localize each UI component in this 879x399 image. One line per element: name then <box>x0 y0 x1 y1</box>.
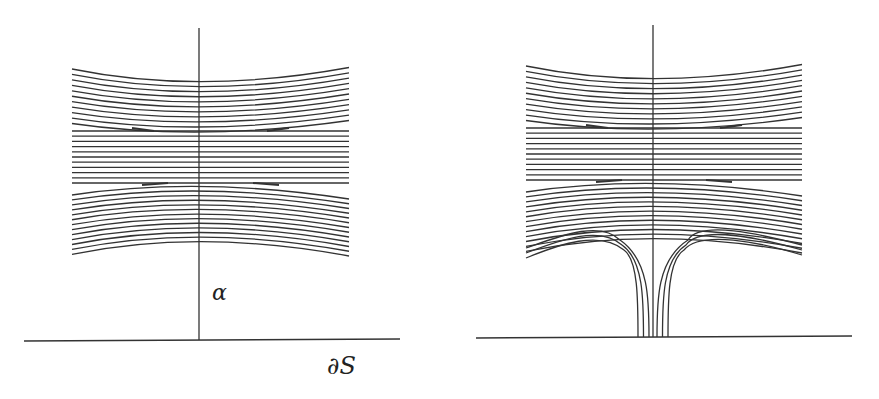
foliation-diagram <box>0 0 879 399</box>
spike-leaf-right <box>657 230 802 337</box>
boundary-line <box>24 339 400 341</box>
spike-leaf-left <box>526 240 638 337</box>
leaf-bottom <box>526 183 802 196</box>
spike-leaf-right <box>668 239 802 337</box>
arc-alpha-label: α <box>212 280 227 305</box>
right-panel <box>476 25 852 338</box>
leaf-bottom <box>72 186 349 199</box>
leaf-bottom <box>526 239 802 253</box>
boundary-label: ∂S <box>327 352 356 380</box>
boundary-line <box>476 336 852 338</box>
leaf-bottom <box>72 242 349 256</box>
